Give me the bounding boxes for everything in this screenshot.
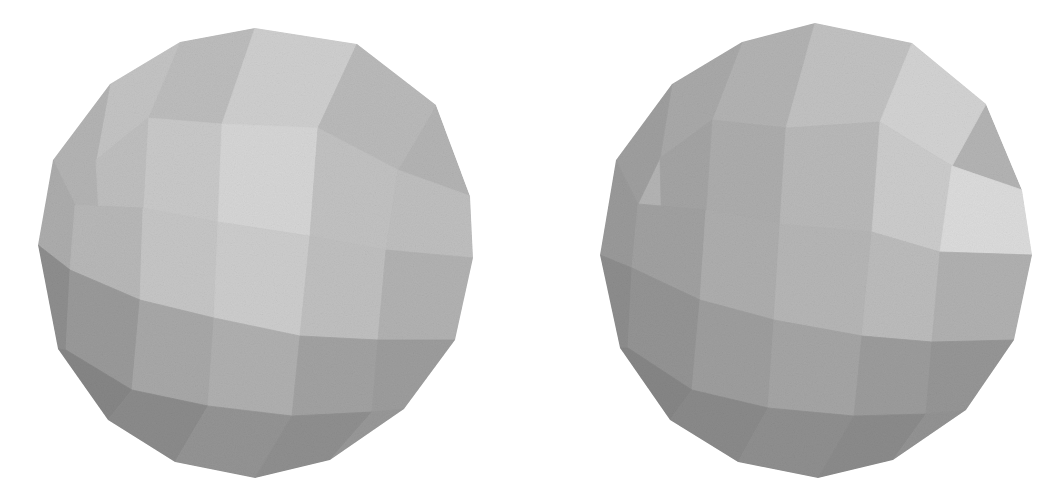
polyhedra-stereo-pair bbox=[0, 0, 1064, 500]
right-polyhedron-facet-upper-ring-m bbox=[780, 122, 880, 232]
left-polyhedron-facet-lower-left-b bbox=[132, 300, 214, 406]
right-polyhedron-facet-mid-right bbox=[932, 252, 1032, 342]
left-polyhedron-facet-lower-right-b bbox=[372, 340, 455, 412]
right-polyhedron-facet-upper-ring-r2 bbox=[940, 166, 1032, 255]
right-polyhedron-facet-upper-ring-l1 bbox=[706, 120, 786, 224]
right-polyhedron bbox=[600, 23, 1032, 478]
left-polyhedron-facet-mid-left-inner bbox=[140, 208, 218, 318]
right-polyhedron-facet-mid-center bbox=[774, 224, 872, 336]
left-polyhedron-facet-lower-right-a bbox=[292, 336, 378, 416]
right-polyhedron-facet-lower-right-a bbox=[854, 336, 932, 416]
left-polyhedron-facet-upper-ring-l1 bbox=[143, 118, 222, 222]
left-polyhedron bbox=[38, 28, 473, 478]
figure-canvas bbox=[0, 0, 1064, 500]
right-polyhedron-facet-lower-left-dark bbox=[600, 255, 632, 348]
left-polyhedron-facet-upper-ring-m bbox=[218, 124, 318, 236]
right-polyhedron-facet-lower-center bbox=[768, 320, 862, 416]
right-polyhedron-facet-mid-right-inner bbox=[862, 232, 940, 342]
left-polyhedron-facet-mid-right bbox=[378, 250, 473, 340]
left-polyhedron-facet-mid-center bbox=[214, 222, 310, 336]
right-polyhedron-facet-lower-right-b bbox=[926, 340, 1014, 414]
left-polyhedron-facet-mid-right-inner bbox=[300, 236, 386, 340]
